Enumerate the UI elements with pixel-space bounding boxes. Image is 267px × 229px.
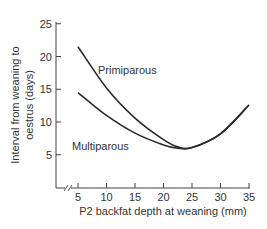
y-tick-label: 20: [40, 51, 52, 63]
y-ticks: 510152025: [40, 18, 61, 161]
y-axis-label-line2: oestrus (days): [23, 70, 35, 140]
line-chart: 510152025 5101520253035 Interval from we…: [0, 0, 267, 229]
y-tick-label: 5: [46, 149, 52, 161]
y-tick-label: 25: [40, 18, 52, 30]
x-tick-label: 25: [186, 191, 198, 203]
x-tick-label: 10: [100, 191, 112, 203]
x-tick-label: 5: [75, 191, 81, 203]
y-tick-label: 10: [40, 116, 52, 128]
y-tick-label: 15: [40, 83, 52, 95]
x-tick-label: 30: [214, 191, 226, 203]
y-axis-label-line1: Interval from weaning to: [9, 46, 21, 163]
series-lines: [78, 47, 249, 149]
primiparous-label: Primiparous: [98, 64, 157, 76]
x-tick-label: 35: [243, 191, 255, 203]
x-tick-label: 20: [157, 191, 169, 203]
multiparous-label: Multiparous: [72, 140, 129, 152]
x-ticks: 5101520253035: [75, 183, 255, 203]
primiparous-curve: [78, 47, 249, 149]
x-tick-label: 15: [129, 191, 141, 203]
x-axis-label: P2 backfat depth at weaning (mm): [79, 205, 247, 217]
